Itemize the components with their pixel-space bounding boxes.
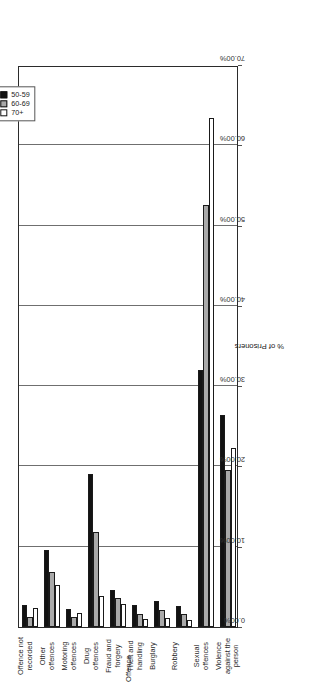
- category-label: Drug offences: [83, 632, 100, 680]
- gridline: [19, 144, 237, 145]
- bar: [99, 596, 104, 627]
- rotated-chart-canvas: 70.00%60.00%50.00%40.00%30.00%20.00%10.0…: [0, 0, 332, 684]
- bar: [121, 604, 126, 627]
- value-tick-label: 50.00%: [220, 215, 245, 224]
- value-axis-title: % of Prisoners: [235, 342, 284, 351]
- axis-tick: [238, 65, 242, 66]
- legend: 50-5960-6970+: [0, 86, 36, 121]
- category-label: Other offences: [39, 632, 56, 680]
- legend-entry: 60-69: [0, 99, 29, 108]
- value-tick-label: 30.00%: [220, 375, 245, 384]
- legend-entry: 50-59: [0, 90, 29, 99]
- axis-tick: [238, 306, 242, 307]
- bar: [55, 585, 60, 627]
- legend-swatch: [0, 100, 7, 107]
- category-label: Sexual offences: [193, 632, 210, 680]
- bar: [143, 619, 148, 627]
- legend-swatch: [0, 109, 7, 116]
- legend-label: 70+: [11, 108, 23, 117]
- value-tick-label: 10.00%: [220, 536, 245, 545]
- legend-swatch: [0, 91, 7, 98]
- axis-tick: [238, 226, 242, 227]
- category-label: Burglary: [149, 632, 158, 680]
- legend-entry: 70+: [0, 108, 29, 117]
- value-tick-label: 60.00%: [220, 134, 245, 143]
- category-axis-title: Offence: [124, 656, 133, 682]
- value-tick-label: 70.00%: [220, 54, 245, 63]
- bar: [187, 620, 192, 627]
- legend-label: 60-69: [11, 99, 29, 108]
- legend-label: 50-59: [11, 90, 29, 99]
- value-tick-label: 40.00%: [220, 295, 245, 304]
- axis-tick: [238, 627, 242, 628]
- bar: [165, 618, 170, 627]
- value-tick-label: 20.00%: [220, 455, 245, 464]
- category-label: Violence against the person: [215, 632, 241, 680]
- axis-tick: [238, 386, 242, 387]
- axis-tick: [238, 145, 242, 146]
- plot-area: [18, 66, 238, 628]
- axis-tick: [238, 547, 242, 548]
- value-tick-label: 0.00%: [224, 616, 245, 625]
- bar: [33, 608, 38, 627]
- category-label: Motoring offences: [61, 632, 78, 680]
- category-label: Offence not recorded: [17, 632, 34, 680]
- category-label: Robbery: [171, 632, 180, 680]
- category-label: Fraud and forgery: [105, 632, 122, 680]
- bar: [77, 613, 82, 627]
- bar-chart: 70.00%60.00%50.00%40.00%30.00%20.00%10.0…: [0, 0, 332, 684]
- axis-tick: [238, 466, 242, 467]
- bar: [209, 118, 214, 627]
- chart-screenshot: 70.00%60.00%50.00%40.00%30.00%20.00%10.0…: [0, 0, 332, 684]
